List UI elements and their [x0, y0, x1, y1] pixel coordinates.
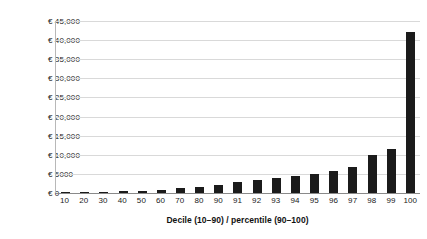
x-tick-label: 70 [170, 195, 189, 209]
bar-chart: € 0€ 5000€ 10,000€ 15,000€ 20,000€ 25,00… [0, 0, 427, 239]
bar-slot [382, 21, 401, 193]
x-tick-label: 99 [381, 195, 400, 209]
bar[interactable] [176, 188, 185, 193]
x-tick-label: 90 [209, 195, 228, 209]
x-tick-label: 20 [74, 195, 93, 209]
x-tick-label: 80 [189, 195, 208, 209]
bar[interactable] [348, 167, 357, 193]
x-tick-label: 93 [266, 195, 285, 209]
x-tick-label: 100 [401, 195, 420, 209]
x-tick-label: 91 [228, 195, 247, 209]
bar[interactable] [80, 192, 89, 193]
bar-slot [401, 21, 420, 193]
x-axis: 102030405060708090919293949596979899100 [55, 195, 420, 209]
bar[interactable] [195, 187, 204, 193]
bar-slot [190, 21, 209, 193]
bar[interactable] [233, 182, 242, 193]
x-tick-label: 40 [113, 195, 132, 209]
bar[interactable] [119, 191, 128, 193]
x-tick-label: 98 [362, 195, 381, 209]
bar[interactable] [310, 174, 319, 193]
x-tick-label: 10 [55, 195, 74, 209]
bar-slot [209, 21, 228, 193]
x-tick-label: 96 [324, 195, 343, 209]
x-tick-label: 60 [151, 195, 170, 209]
bar-slot [94, 21, 113, 193]
bar-slot [75, 21, 94, 193]
bar[interactable] [138, 191, 147, 193]
x-tick-label: 95 [305, 195, 324, 209]
bar-slot [133, 21, 152, 193]
bar[interactable] [272, 178, 281, 193]
bar-slot [228, 21, 247, 193]
bar[interactable] [157, 190, 166, 193]
axis-line-zero [56, 193, 420, 194]
bar-slot [56, 21, 75, 193]
bar-slot [324, 21, 343, 193]
bar-slot [305, 21, 324, 193]
bar[interactable] [291, 176, 300, 193]
bar-slot [267, 21, 286, 193]
x-tick-label: 50 [132, 195, 151, 209]
x-tick-label: 97 [343, 195, 362, 209]
bar[interactable] [406, 32, 415, 193]
x-tick-label: 30 [93, 195, 112, 209]
bar-slot [152, 21, 171, 193]
bar[interactable] [368, 155, 377, 193]
bar-slot [343, 21, 362, 193]
bar[interactable] [214, 185, 223, 193]
bar[interactable] [61, 192, 70, 193]
y-axis: € 0€ 5000€ 10,000€ 15,000€ 20,000€ 25,00… [0, 0, 51, 239]
plot-area [55, 21, 420, 193]
x-tick-label: 92 [247, 195, 266, 209]
bar[interactable] [329, 171, 338, 193]
bar[interactable] [387, 149, 396, 193]
bar[interactable] [253, 180, 262, 193]
x-tick-label: 94 [285, 195, 304, 209]
bar[interactable] [99, 192, 108, 193]
bar-slot [113, 21, 132, 193]
bar-slot [171, 21, 190, 193]
bars-group [56, 21, 420, 193]
x-axis-title: Decile (10–90) / percentile (90–100) [55, 215, 420, 225]
bar-slot [363, 21, 382, 193]
bar-slot [286, 21, 305, 193]
bar-slot [248, 21, 267, 193]
